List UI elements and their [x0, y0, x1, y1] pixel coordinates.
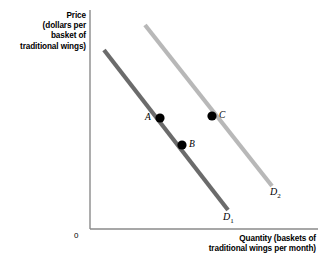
point-label-b: B	[189, 139, 195, 149]
demand-curve-d2	[145, 25, 272, 186]
data-point-b	[177, 140, 186, 149]
data-point-c	[207, 111, 216, 120]
data-point-a	[155, 113, 164, 122]
curve-label-d2: D2	[270, 186, 281, 200]
curve-label-d1-subscript: 1	[230, 217, 234, 225]
point-label-a: A	[145, 112, 151, 122]
point-label-c: C	[219, 110, 225, 120]
curve-label-d1: D1	[223, 211, 234, 225]
origin-label: 0	[74, 231, 78, 240]
x-axis-title: Quantity (baskets of traditional wings p…	[128, 234, 316, 254]
demand-curve-d1	[104, 50, 228, 210]
demand-curve-figure: Price (dollars per basket of traditional…	[0, 0, 318, 258]
curve-label-d2-subscript: 2	[277, 192, 281, 200]
y-axis-title: Price (dollars per basket of traditional…	[0, 11, 86, 52]
